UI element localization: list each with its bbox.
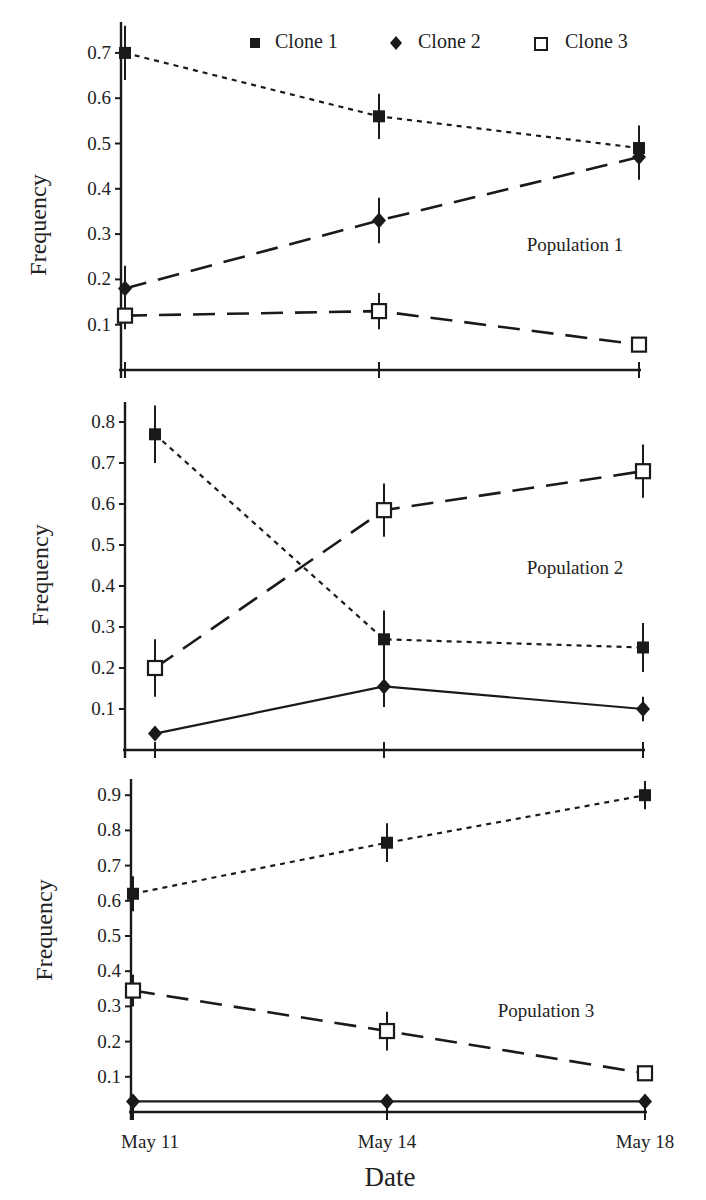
x-axis-label: Date [365, 1162, 416, 1192]
y-axis-label: Frequency [25, 174, 51, 275]
series-line-clone-2 [155, 686, 643, 733]
data-point-marker [126, 1093, 140, 1109]
series-line-clone-1 [155, 434, 643, 647]
data-point-marker [636, 464, 650, 478]
y-tick-label: 0.6 [97, 890, 121, 911]
data-point-marker [119, 47, 131, 59]
y-axis-label: Frequency [31, 879, 57, 980]
legend-marker-filled-square [250, 38, 260, 48]
legend-marker-open-square [535, 38, 547, 50]
population-label: Population 1 [527, 234, 624, 255]
data-point-marker [638, 1093, 652, 1109]
y-tick-label: 0.7 [97, 855, 121, 876]
y-tick-label: 0.7 [91, 452, 115, 473]
y-tick-label: 0.6 [87, 87, 111, 108]
data-point-marker [636, 701, 650, 717]
y-tick-label: 0.9 [97, 784, 121, 805]
data-point-marker [637, 642, 649, 654]
data-point-marker [639, 789, 651, 801]
data-point-marker [377, 503, 391, 517]
y-tick-label: 0.4 [97, 960, 121, 981]
data-point-marker [372, 213, 386, 229]
data-point-marker [372, 304, 386, 318]
series-line-clone-1 [125, 53, 639, 148]
data-point-marker [632, 338, 646, 352]
data-point-marker [380, 1093, 394, 1109]
y-tick-label: 0.8 [91, 411, 115, 432]
data-point-marker [380, 1024, 394, 1038]
y-tick-label: 0.3 [97, 995, 121, 1016]
y-tick-label: 0.6 [91, 493, 115, 514]
x-tick-label: May 11 [121, 1131, 179, 1152]
data-point-marker [377, 678, 391, 694]
data-point-marker [148, 661, 162, 675]
y-tick-label: 0.5 [91, 534, 115, 555]
y-tick-label: 0.1 [91, 698, 115, 719]
y-tick-label: 0.1 [87, 314, 111, 335]
chart-svg: 0.10.20.30.40.50.60.7FrequencyPopulation… [0, 0, 706, 1200]
data-point-marker [127, 888, 139, 900]
x-tick-label: May 14 [358, 1131, 417, 1152]
y-tick-label: 0.2 [91, 657, 115, 678]
y-tick-label: 0.3 [91, 616, 115, 637]
y-tick-label: 0.2 [87, 268, 111, 289]
population-label: Population 2 [527, 557, 624, 578]
data-point-marker [638, 1066, 652, 1080]
y-tick-label: 0.1 [97, 1066, 121, 1087]
y-tick-label: 0.5 [87, 133, 111, 154]
y-tick-label: 0.3 [87, 223, 111, 244]
x-tick-label: May 18 [616, 1131, 675, 1152]
legend-label: Clone 2 [418, 30, 481, 52]
y-tick-label: 0.7 [87, 42, 111, 63]
y-tick-label: 0.4 [87, 178, 111, 199]
data-point-marker [378, 633, 390, 645]
data-point-marker [381, 837, 393, 849]
y-tick-label: 0.5 [97, 925, 121, 946]
data-point-marker [126, 984, 140, 998]
data-point-marker [148, 726, 162, 742]
data-point-marker [373, 110, 385, 122]
y-tick-label: 0.4 [91, 575, 115, 596]
data-point-marker [149, 428, 161, 440]
y-axis-label: Frequency [27, 524, 53, 625]
data-point-marker [118, 309, 132, 323]
y-tick-label: 0.8 [97, 819, 121, 840]
legend-label: Clone 3 [565, 30, 628, 52]
figure: 0.10.20.30.40.50.60.7FrequencyPopulation… [0, 0, 706, 1200]
y-tick-label: 0.2 [97, 1031, 121, 1052]
legend-marker-filled-diamond [390, 36, 402, 50]
legend-label: Clone 1 [275, 30, 338, 52]
population-label: Population 3 [498, 1000, 595, 1021]
